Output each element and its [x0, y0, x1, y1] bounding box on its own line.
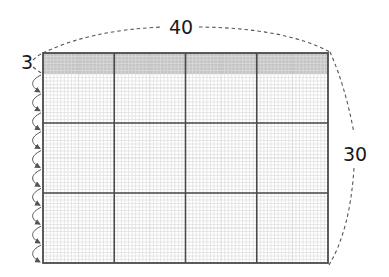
width-label: 40	[169, 16, 193, 38]
curved-arrow	[33, 188, 41, 205]
height-label: 30	[343, 143, 367, 165]
strip-arc-top	[33, 53, 43, 60]
grid-diagram: 40 30 3	[0, 0, 389, 277]
curved-arrow	[33, 226, 41, 243]
curved-arrow	[33, 151, 41, 168]
curved-arrow	[33, 132, 41, 149]
curved-arrow	[33, 75, 41, 92]
width-arc-left	[43, 27, 163, 53]
curved-arrow	[33, 245, 41, 262]
height-arc-top	[330, 52, 354, 133]
curved-arrow	[33, 207, 41, 224]
curved-arrow	[33, 170, 41, 187]
curved-arrow	[33, 94, 41, 111]
strip-arc-bottom	[33, 67, 43, 74]
height-arc-bottom	[329, 168, 354, 265]
strip-height-label: 3	[21, 51, 33, 73]
width-arc-right	[199, 27, 330, 52]
curved-arrow	[33, 113, 41, 130]
curved-arrows	[33, 75, 41, 262]
